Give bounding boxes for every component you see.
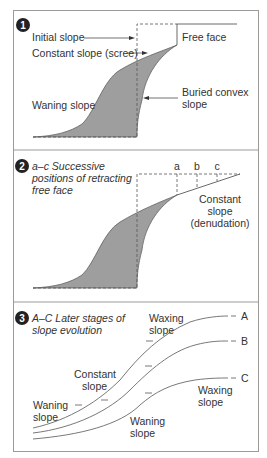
label-initial-slope: Initial slope [32, 31, 85, 43]
waxing-top-1: Waxing [149, 312, 184, 324]
constant-1: Constant [74, 368, 116, 380]
waning-left-2: slope [33, 411, 58, 423]
scree-fill [33, 195, 177, 288]
label-free-face: Free face [182, 31, 227, 43]
caption-line-3: free face [32, 184, 73, 196]
waning-bottom-2: slope [130, 427, 155, 439]
waxing-right-1: Waxing [198, 384, 233, 396]
arrow-head-icon [129, 36, 135, 40]
panel-1: 1 Initial slope Constant slope (scree) F… [16, 18, 249, 137]
caption-line-2: positions of retracting [31, 172, 132, 184]
constant-label-3: (denudation) [191, 217, 250, 229]
waning-left-1: Waning [33, 399, 68, 411]
arrow-head-icon [142, 51, 148, 55]
position-b-label: b [194, 160, 200, 172]
constant-2: slope [82, 380, 107, 392]
panel-3-number: 3 [19, 313, 25, 324]
label-constant-slope: Constant slope (scree) [32, 47, 138, 59]
caption-line-1: a–c Successive [32, 160, 105, 172]
slope-evolution-diagram: 1 Initial slope Constant slope (scree) F… [0, 0, 267, 458]
position-a-label: a [174, 160, 180, 172]
panel-2: 2 a–c Successive positions of retracting… [15, 159, 249, 288]
constant-label-1: Constant [199, 193, 241, 205]
label-buried-convex-1: Buried convex [182, 86, 249, 98]
curve-a-label: A [241, 310, 248, 322]
curve-c-label: C [241, 372, 249, 384]
position-c-label: c [214, 160, 219, 172]
panel-1-number: 1 [20, 20, 26, 31]
arrow-head-icon [143, 96, 149, 100]
caption-line-1: A–C Later stages of [31, 312, 126, 324]
panel-3: 3 A–C Later stages of slope evolution A … [15, 310, 249, 439]
caption-line-2: slope evolution [32, 324, 102, 336]
waxing-top-2: slope [149, 324, 174, 336]
label-waning-slope: Waning slope [32, 99, 95, 111]
constant-label-2: slope [207, 205, 232, 217]
label-buried-convex-2: slope [182, 98, 207, 110]
waning-bottom-1: Waning [130, 415, 165, 427]
panel-2-number: 2 [19, 161, 25, 172]
curve-b-label: B [241, 335, 248, 347]
constant-slope-line [177, 174, 240, 195]
waxing-right-2: slope [198, 396, 223, 408]
